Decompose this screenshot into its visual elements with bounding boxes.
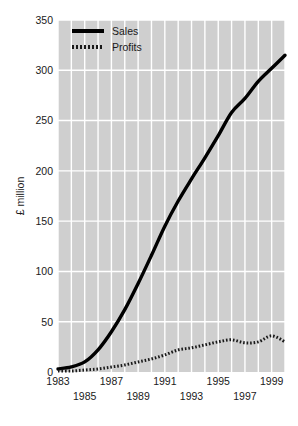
x-tick-label: 1987 [100,375,124,387]
y-tick-label: 350 [35,14,53,26]
y-tick-label: 100 [35,265,53,277]
chart-container: 050100150200250300350 198319871991199519… [0,0,298,426]
y-tick-label: 300 [35,64,53,76]
x-tick-label: 1983 [46,375,70,387]
x-tick-label: 1985 [73,390,97,402]
y-tick-label: 50 [41,316,53,328]
plot-area-background [58,20,285,372]
y-tick-label: 200 [35,165,53,177]
x-tick-label: 1989 [126,390,150,402]
y-axis-title: £ million [14,177,26,216]
y-tick-label: 150 [35,215,53,227]
legend-label-sales: Sales [112,25,138,37]
x-tick-label: 1995 [207,375,231,387]
line-chart: 050100150200250300350 198319871991199519… [0,0,298,426]
x-tick-label: 1999 [260,375,284,387]
x-tick-label: 1997 [233,390,257,402]
y-tick-label: 250 [35,114,53,126]
legend-label-profits: Profits [112,41,142,53]
x-tick-label: 1993 [180,390,204,402]
x-tick-label: 1991 [153,375,177,387]
